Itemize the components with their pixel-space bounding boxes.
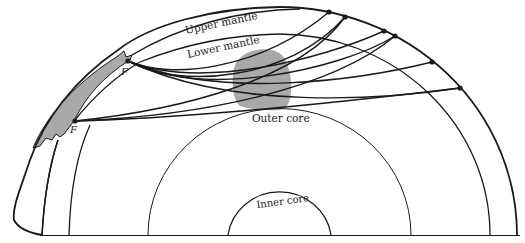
earth-cross-section-diagram: F F Upper mantle Lower mantle Outer core… [0,0,525,243]
subducting-slab [33,51,132,148]
seismic-rays-upper-focus [128,12,460,98]
label-focus-lower: F [69,124,78,135]
label-outer-core: Outer core [252,112,310,124]
focus-point-lower [72,118,77,123]
upper-mantle-outer-line [42,140,58,235]
outer-core-boundary [148,109,411,235]
focus-point-upper [125,58,130,63]
label-upper-mantle: Upper mantle [184,9,259,36]
label-focus-upper: F [120,66,129,77]
